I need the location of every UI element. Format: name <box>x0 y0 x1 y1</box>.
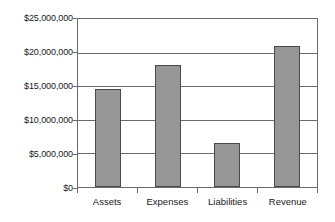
y-axis-label-15m: $15,000,000 <box>0 82 73 91</box>
x-axis-label-assets: Assets <box>77 196 137 207</box>
bar-expenses <box>155 65 181 187</box>
bar-revenue <box>274 46 300 187</box>
y-axis-label-20m: $20,000,000 <box>0 48 73 57</box>
y-axis-label-10m: $10,000,000 <box>0 116 73 125</box>
y-axis-label-25m: $25,000,000 <box>0 14 73 23</box>
bar-liabilities <box>214 143 240 187</box>
bar-slot-expenses <box>138 19 198 187</box>
x-axis-label-revenue: Revenue <box>258 196 318 207</box>
bar-slot-liabilities <box>198 19 258 187</box>
plot-area <box>77 18 318 188</box>
bar-slot-assets <box>78 19 138 187</box>
x-axis-tick-4 <box>317 188 318 193</box>
x-axis-tick-1 <box>137 188 138 193</box>
x-axis-tick-0 <box>77 188 78 193</box>
bars-layer <box>78 19 317 187</box>
x-axis-label-expenses: Expenses <box>137 196 197 207</box>
x-axis-tick-3 <box>257 188 258 193</box>
y-axis-label-0: $0 <box>0 184 73 193</box>
bar-chart: $25,000,000 $20,000,000 $15,000,000 $10,… <box>0 0 335 222</box>
x-axis-labels: Assets Expenses Liabilities Revenue <box>77 196 318 207</box>
bar-assets <box>95 89 121 187</box>
bar-slot-revenue <box>257 19 317 187</box>
y-axis-label-5m: $5,000,000 <box>0 150 73 159</box>
x-axis-tick-2 <box>197 188 198 193</box>
x-axis-label-liabilities: Liabilities <box>198 196 258 207</box>
